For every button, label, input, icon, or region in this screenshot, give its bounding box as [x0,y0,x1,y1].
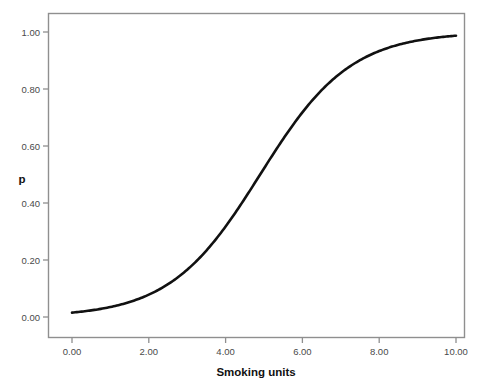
x-tick-label: 10.00 [444,346,468,357]
x-tick-label: 6.00 [293,346,312,357]
y-tick-label: 0.60 [22,141,41,152]
chart-canvas: 1.00 0.80 0.60 0.40 0.20 0.00 0.00 2.00 … [0,0,482,389]
logistic-regression-chart: 1.00 0.80 0.60 0.40 0.20 0.00 0.00 2.00 … [0,0,482,389]
y-tick-label: 0.40 [22,198,41,209]
y-axis-title: p [18,173,25,185]
x-tick-label: 4.00 [216,346,235,357]
y-tick-label: 0.20 [22,255,41,266]
y-tick-label: 0.00 [22,312,41,323]
y-tick-label: 1.00 [22,27,41,38]
y-tick-label: 0.80 [22,84,41,95]
x-tick-label: 0.00 [63,346,82,357]
x-axis-title: Smoking units [216,366,295,378]
chart-background [0,0,482,389]
x-tick-label: 8.00 [370,346,389,357]
x-tick-label: 2.00 [140,346,159,357]
